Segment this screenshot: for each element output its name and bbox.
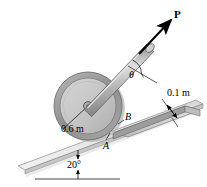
incline-angle-label: 20° — [67, 160, 81, 170]
force-p-arrow — [139, 20, 171, 54]
point-b-label: B — [125, 112, 131, 122]
point-a-label: A — [103, 141, 109, 151]
mechanics-diagram: P θ A B 0.6 m 0.1 m 20° — [0, 0, 207, 187]
dim-extension-upper — [162, 99, 170, 110]
force-p-label: P — [174, 9, 181, 20]
step-height-label: 0.1 m — [167, 88, 190, 98]
force-p-vector — [139, 20, 171, 54]
wheel-radius-label: 0.6 m — [61, 124, 84, 134]
theta-angle-label: θ — [129, 70, 134, 80]
